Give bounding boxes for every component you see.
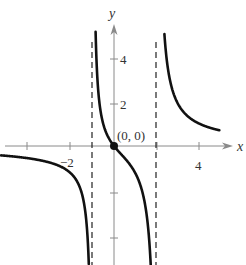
origin-label: (0, 0) xyxy=(117,128,145,143)
x-tick-label-4: 4 xyxy=(195,158,202,173)
curve-right-branch xyxy=(164,34,219,130)
y-tick-label-4: 4 xyxy=(120,52,127,67)
x-axis-label: x xyxy=(236,139,244,154)
y-axis-label: y xyxy=(107,6,116,21)
origin-point xyxy=(110,142,118,150)
y-tick-label-2: 2 xyxy=(120,97,127,112)
curve-left-branch xyxy=(1,155,89,264)
plot-area: x y −2 4 2 4 (0, 0) xyxy=(0,0,246,265)
x-tick-label-neg2: −2 xyxy=(60,155,74,170)
graph-figure: x y −2 4 2 4 (0, 0) xyxy=(0,0,246,265)
